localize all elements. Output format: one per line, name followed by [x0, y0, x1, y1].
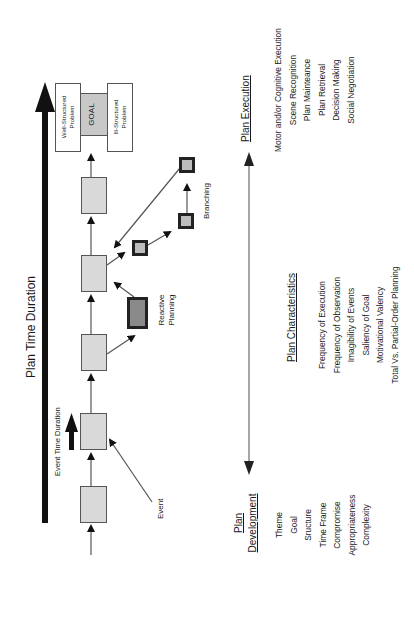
branch-box-1	[132, 240, 148, 256]
plan-characteristics-item: Frequency of Observation	[330, 240, 345, 410]
event-time-duration-arrow	[65, 413, 78, 450]
well-structured-line2: Problem	[68, 83, 76, 151]
reactive-line2: Planning	[167, 290, 177, 330]
well-structured-label: Well-Structured Problem	[60, 83, 75, 151]
plan-characteristics-item: Imagibility of Events	[344, 240, 359, 410]
plan-characteristics-item: Total Vs. Partial-Order Planning	[388, 240, 403, 410]
plan-development-item: Complexity	[359, 485, 374, 565]
plan-execution-item: Plan Retrieval	[315, 0, 330, 180]
plan-step-box-2	[80, 413, 107, 450]
ill-structured-label: Ill-Structured Problem	[112, 83, 127, 151]
plan-execution-item: Scene Recognition	[286, 0, 301, 180]
branch-box-2	[178, 213, 194, 229]
plan-characteristics-item: Saliency of Goal	[359, 240, 374, 410]
plan-time-duration-arrow	[35, 82, 55, 523]
event-label: Event	[157, 499, 165, 519]
plan-execution-heading: Plan Execution	[241, 75, 251, 142]
ill-structured-line1: Ill-Structured	[112, 83, 120, 151]
plan-development-item: Appropriateness	[345, 485, 360, 565]
plan-execution-item: Social Negotiation	[344, 0, 359, 180]
reactive-planning-box	[127, 297, 148, 329]
plan-development-item: Goal	[287, 485, 302, 565]
plan-step-box-1	[80, 486, 107, 523]
ill-structured-line2: Problem	[120, 83, 128, 151]
plan-phase-axis-arrow	[244, 152, 254, 475]
well-structured-line1: Well-Structured	[60, 83, 68, 151]
plan-time-duration-label: Plan Time Duration	[25, 276, 37, 378]
plan-development-item: Theme	[272, 485, 287, 565]
plan-step-box-3	[81, 334, 107, 371]
reactive-line1: Reactive	[157, 290, 167, 330]
branching-label: Branching	[203, 183, 211, 219]
plan-execution-item: Motor and/or Cognitive Execution	[271, 0, 286, 180]
plan-development-item: Compromise	[330, 485, 345, 565]
plan-execution-item: Plan Mainteance	[300, 0, 315, 180]
plan-characteristics-item: Frequency of Execution	[315, 240, 330, 410]
plan-development-heading-line1: Plan	[232, 488, 246, 558]
reactive-planning-label: Reactive Planning	[157, 290, 177, 330]
plan-development-list: Theme Goal Sructure Time Frame Compromis…	[272, 485, 374, 565]
plan-step-box-5	[81, 177, 107, 214]
plan-development-item: Sructure	[301, 485, 316, 565]
event-time-duration-label: Event Time Duration	[54, 407, 62, 476]
plan-step-box-4	[81, 255, 107, 292]
plan-execution-item: Decision Making	[329, 0, 344, 180]
branch-box-3	[179, 157, 195, 173]
plan-development-heading: Plan Development	[232, 488, 260, 558]
plan-execution-list: Motor and/or Cognitive Execution Scene R…	[271, 0, 358, 180]
plan-development-heading-line2: Development	[246, 488, 260, 558]
plan-development-item: Time Frame	[316, 485, 331, 565]
goal-label: GOAL	[88, 93, 96, 136]
plan-characteristics-item: Motivational Valency	[373, 240, 388, 410]
plan-characteristics-list: Frequency of Execution Frequency of Obse…	[315, 240, 403, 410]
plan-characteristics-heading: Plan Characteristics	[287, 273, 297, 362]
